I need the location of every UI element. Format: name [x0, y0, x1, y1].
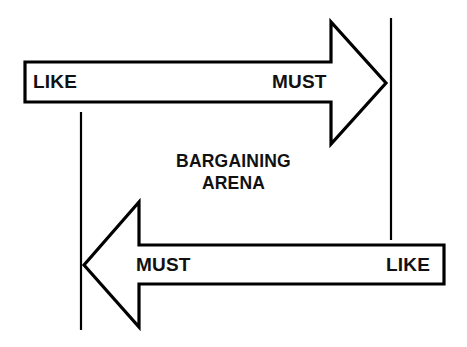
- bargaining-arena-label: BARGAINING ARENA: [0, 150, 467, 195]
- bottom-arrow-must-label: MUST: [136, 255, 191, 274]
- bargaining-arena-label-line1: BARGAINING: [0, 150, 467, 172]
- bottom-arrow-like-label: LIKE: [386, 255, 430, 274]
- bargaining-arena-label-line2: ARENA: [0, 172, 467, 194]
- top-arrow-must-label: MUST: [272, 72, 327, 91]
- bargaining-arena-diagram: LIKE MUST BARGAINING ARENA MUST LIKE: [0, 0, 467, 347]
- top-arrow-like-label: LIKE: [33, 72, 77, 91]
- top-arrow-right: [25, 22, 386, 144]
